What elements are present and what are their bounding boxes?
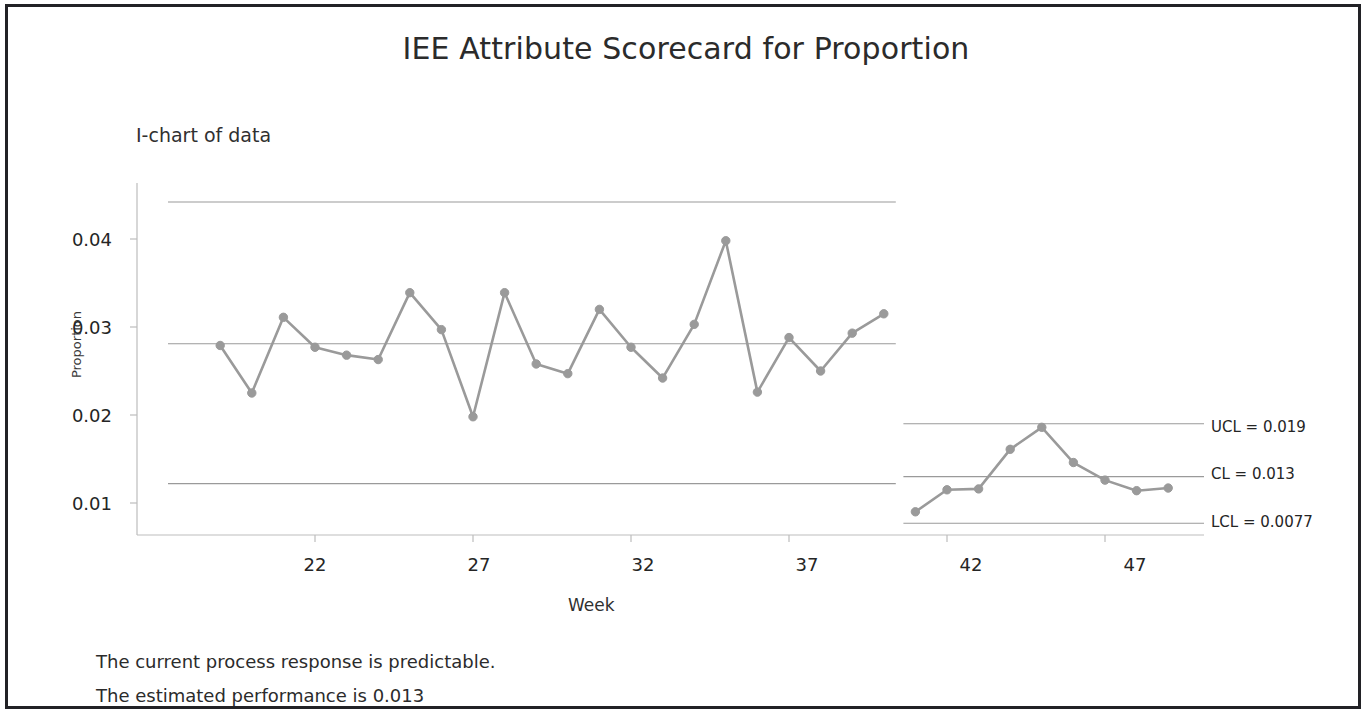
ucl-label: UCL = 0.019 (1211, 418, 1306, 436)
scorecard-page: IEE Attribute Scorecard for Proportion I… (0, 0, 1366, 713)
i-chart-plot (8, 7, 1364, 712)
footer-line-1: The current process response is predicta… (96, 651, 495, 672)
footer-line-2: The estimated performance is 0.013 (96, 685, 424, 706)
cl-label: CL = 0.013 (1211, 465, 1295, 483)
lcl-label: LCL = 0.0077 (1211, 513, 1313, 531)
chart-frame: IEE Attribute Scorecard for Proportion I… (5, 4, 1361, 709)
